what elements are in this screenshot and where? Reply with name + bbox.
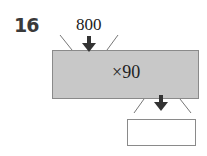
input-funnel-right xyxy=(107,35,118,50)
arrow-down-icon xyxy=(82,36,96,52)
input-funnel-left xyxy=(60,35,72,50)
answer-box[interactable] xyxy=(127,119,196,146)
arrow-down-icon xyxy=(154,95,168,111)
output-funnel-left xyxy=(134,99,144,113)
output-funnel-right xyxy=(180,99,191,113)
